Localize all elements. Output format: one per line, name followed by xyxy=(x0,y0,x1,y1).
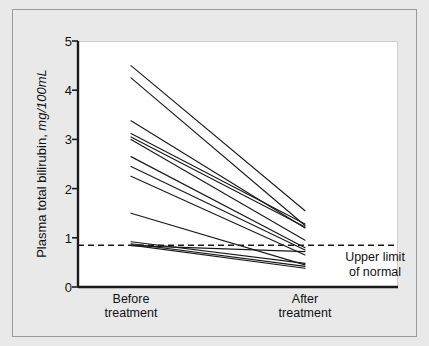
x-category-after-line2: treatment xyxy=(240,306,370,320)
series-line-9 xyxy=(131,176,305,255)
series-line-3 xyxy=(131,121,305,228)
y-tick-label-3: 3 xyxy=(50,133,72,146)
figure-root: 5 4 3 2 1 0 Plasma total bilirubin, mg/1… xyxy=(0,0,429,346)
y-tick-label-1: 1 xyxy=(50,232,72,245)
series-line-2 xyxy=(131,78,305,226)
series-line-6 xyxy=(131,139,305,240)
y-axis-title: Plasma total bilirubin, mg/100mL xyxy=(34,54,49,274)
y-axis-title-unit: mg/100mL xyxy=(34,69,49,130)
series-line-7 xyxy=(131,157,305,248)
x-category-after-line1: After xyxy=(240,292,370,306)
y-tick-label-2: 2 xyxy=(50,183,72,196)
series-line-1 xyxy=(131,66,305,211)
x-category-before: Before treatment xyxy=(66,292,196,320)
upper-limit-annotation: Upper limit of normal xyxy=(315,250,429,280)
upper-limit-line1: Upper limit xyxy=(315,250,429,265)
x-category-after: After treatment xyxy=(240,292,370,320)
x-category-before-line1: Before xyxy=(66,292,196,306)
x-category-before-line2: treatment xyxy=(66,306,196,320)
upper-limit-line2: of normal xyxy=(315,265,429,280)
y-tick-label-4: 4 xyxy=(50,84,72,97)
y-tick-label-5: 5 xyxy=(50,35,72,48)
y-axis-title-main: Plasma total bilirubin, xyxy=(34,131,49,258)
series-line-5 xyxy=(131,137,305,227)
